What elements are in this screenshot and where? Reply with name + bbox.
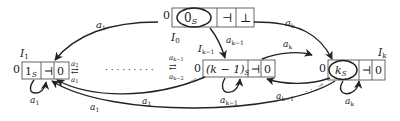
node-i1-cell-1: ⊣ (44, 65, 53, 78)
ik-1-side-bottom: ak−2 (169, 73, 184, 81)
node-i1: I1 0 1S ⊣ 0 a2 ⇄ a1 (13, 47, 79, 84)
edge-ik-1-ik (262, 53, 312, 59)
node-ik-1-cell-0: (k − 1)S (206, 63, 249, 77)
edge-ik-1-ik-label: ak (283, 39, 292, 50)
node-i0-label: I0 (170, 31, 180, 45)
node-i1-cell-0: 1S (25, 65, 37, 79)
node-i0-prefix: 0 (163, 9, 170, 22)
node-i0-cell-0: 0S (184, 11, 198, 26)
loop-ik-1 (222, 78, 240, 92)
swap-arrows-icon: ⇄ (169, 62, 177, 72)
node-ik: Ik 0 kS ⊣ 0 (319, 46, 387, 80)
node-i1-label: I1 (19, 47, 29, 61)
loop-ik (341, 81, 359, 94)
node-i1-cell-2: 0 (57, 65, 64, 78)
automaton-diagram: 0 0S ⊣ ⊥ I0 I1 0 1S ⊣ 0 a2 ⇄ a1 · · · · … (0, 0, 400, 121)
node-ik-cell-2: 0 (375, 64, 382, 77)
edge-i0-ik-label: ak (285, 17, 295, 29)
loop-ik-label: ak (345, 96, 354, 107)
swap-arrows-icon: ⇄ (71, 66, 79, 76)
loop-ik-1-label: ak−1 (220, 95, 238, 106)
node-ik-1-cell-2: 0 (264, 63, 271, 76)
node-i0-cell-1: ⊣ (222, 11, 232, 25)
ellipsis-dots: · · · · · · · · · (105, 65, 154, 75)
i1-side-bottom: a1 (71, 76, 78, 84)
node-ik-1-cell-1: ⊣ (251, 63, 260, 76)
edge-i0-i1 (55, 22, 158, 60)
node-ik-cell-0: kS (335, 64, 347, 78)
ik-1-side-top: ak−1 (169, 54, 184, 62)
node-ik-1-prefix: 0 (194, 62, 201, 75)
node-i0-cell-2: ⊥ (240, 11, 251, 25)
edge-i0-ik-1-label: ak−1 (226, 35, 244, 46)
small-ellipsis: . · · (305, 85, 318, 94)
node-i1-prefix: 0 (13, 63, 20, 76)
node-ik-1-label: Ik−1 (197, 43, 214, 55)
loop-i1-label: a1 (30, 95, 39, 106)
node-ik-prefix: 0 (319, 62, 326, 75)
dotted-arrow-icon (318, 84, 323, 87)
edge-i0-i1-label: a1 (96, 19, 106, 31)
loop-i1 (30, 80, 46, 93)
edge-ik-i1-label: a1 (90, 102, 99, 113)
edge-ik-ik-1 (267, 78, 330, 83)
node-ik-label: Ik (377, 46, 387, 60)
node-ik-cell-1: ⊣ (362, 64, 371, 77)
